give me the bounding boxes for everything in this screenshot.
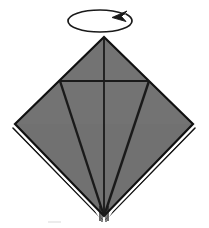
origami-svg-canvas [0, 0, 209, 228]
origami-diagram: Gray diamond-shaped folded paper model w… [0, 0, 209, 228]
